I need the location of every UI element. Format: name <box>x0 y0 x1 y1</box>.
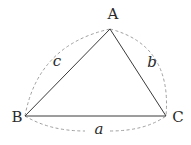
vertex-label-c: C <box>172 108 183 126</box>
arc-side-a-left <box>25 116 85 131</box>
side-label-c: c <box>53 52 62 70</box>
edge-ac <box>110 29 166 116</box>
side-label-b: b <box>147 53 157 71</box>
side-label-a: a <box>95 120 104 138</box>
arc-side-a-right <box>110 116 166 131</box>
vertex-label-a: A <box>107 5 119 23</box>
edge-ab <box>25 29 110 116</box>
triangle-diagram: A B C a b c <box>0 0 191 145</box>
vertex-label-b: B <box>11 108 22 126</box>
